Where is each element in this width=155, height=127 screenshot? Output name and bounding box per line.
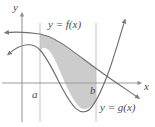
curve-label-f: y = f(x) (48, 19, 81, 30)
area-between-curves-figure: y x a b y = f(x) y = g(x) (0, 0, 155, 127)
curve-label-g: y = g(x) (100, 102, 136, 113)
x-axis-label: x (144, 81, 149, 92)
y-axis-label: y (13, 2, 18, 13)
bound-label-b: b (90, 85, 96, 96)
bound-label-a: a (32, 89, 38, 100)
